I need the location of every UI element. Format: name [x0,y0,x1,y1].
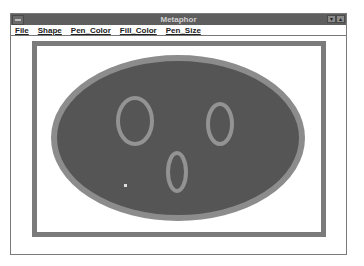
cursor-speck [124,184,127,187]
drawing-canvas[interactable] [0,0,364,266]
face-ellipse [54,58,302,218]
